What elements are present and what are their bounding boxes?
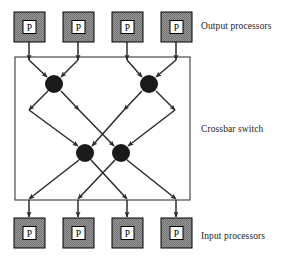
processor-label: P <box>125 23 130 33</box>
processor-box-input: P <box>14 218 45 248</box>
edge-from-switch-node <box>61 91 79 110</box>
processor-boxes: PPPPPPPP <box>14 12 192 248</box>
label-input-processors: Input processors <box>201 231 265 241</box>
processor-label: P <box>76 229 81 239</box>
edge-into-switch-node <box>29 60 47 77</box>
edge-into-switch-node <box>156 60 176 77</box>
processor-box-output: P <box>14 12 45 42</box>
edge-from-switch-node <box>127 160 176 199</box>
switch-node-dot <box>76 144 94 162</box>
edge-into-switch-node <box>127 60 142 77</box>
processor-label: P <box>76 23 81 33</box>
processor-box-output: P <box>63 12 94 42</box>
processor-box-output: P <box>161 12 192 42</box>
processor-label: P <box>174 229 179 239</box>
processor-box-input: P <box>161 218 192 248</box>
processor-label: P <box>27 23 32 33</box>
edge-from-switch-node <box>29 160 79 199</box>
switch-node-dot <box>112 144 130 162</box>
switch-node-dot <box>140 75 158 93</box>
crossbar-switch-box <box>15 57 190 200</box>
processor-label: P <box>125 229 130 239</box>
edge-into-switch-node <box>61 60 78 77</box>
processor-label: P <box>27 229 32 239</box>
processor-label: P <box>174 23 179 33</box>
processor-box-input: P <box>112 218 143 248</box>
switch-node-dot <box>45 75 63 93</box>
label-crossbar-switch: Crossbar switch <box>201 124 263 134</box>
connection-edges <box>29 42 176 217</box>
switch-nodes <box>45 75 158 162</box>
edge-from-switch-node <box>156 91 175 110</box>
edge-from-switch-node <box>29 91 48 110</box>
processor-box-input: P <box>63 218 94 248</box>
edge-into-switch-node <box>29 110 78 146</box>
processor-box-output: P <box>112 12 143 42</box>
edge-from-switch-node <box>124 91 142 110</box>
label-output-processors: Output processors <box>201 21 272 31</box>
edge-into-switch-node <box>128 110 175 146</box>
crossbar-switch-boundary <box>15 57 190 200</box>
diagram-root: PPPPPPPP Output processors Crossbar swit… <box>0 0 292 263</box>
